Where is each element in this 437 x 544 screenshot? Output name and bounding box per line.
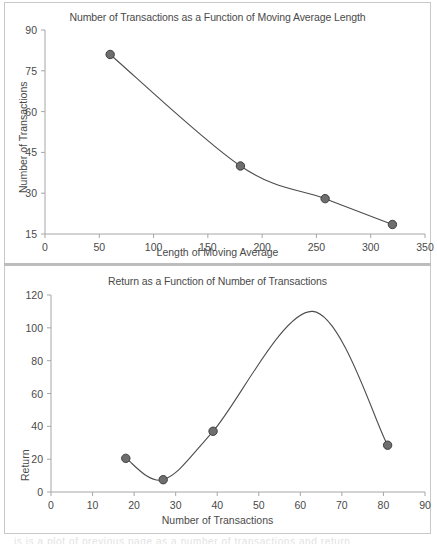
x-tick-label: 90: [419, 499, 431, 511]
y-tick-label: 60: [5, 106, 37, 118]
x-tick-label: 20: [128, 499, 140, 511]
data-point-marker: [383, 441, 391, 449]
plot-area-bottom: [5, 266, 430, 533]
series-line: [110, 54, 392, 224]
series-line: [126, 311, 388, 480]
x-tick-label: 0: [42, 241, 48, 253]
data-point-marker: [122, 454, 130, 462]
data-point-marker: [236, 162, 244, 170]
x-tick-label: 10: [87, 499, 99, 511]
y-tick-label: 120: [5, 289, 43, 301]
data-point-marker: [159, 475, 167, 483]
x-tick-label: 70: [336, 499, 348, 511]
data-point-marker: [209, 427, 217, 435]
plot-area-top: [5, 3, 430, 263]
x-tick-label: 350: [416, 241, 434, 253]
y-tick-label: 60: [5, 388, 43, 400]
data-point-marker: [388, 220, 396, 228]
x-tick-label: 80: [378, 499, 390, 511]
x-tick-label: 300: [362, 241, 380, 253]
y-tick-label: 75: [5, 65, 37, 77]
page-root: Number of Transactions as a Function of …: [0, 0, 437, 544]
x-tick-label: 50: [93, 241, 105, 253]
x-tick-label: 60: [294, 499, 306, 511]
chart-panel-transactions-vs-ma-length: Number of Transactions as a Function of …: [5, 3, 430, 263]
y-tick-label: 15: [5, 228, 37, 240]
x-tick-label: 100: [145, 241, 163, 253]
x-tick-label: 200: [253, 241, 271, 253]
chart-panel-return-vs-transactions: Return as a Function of Number of Transa…: [5, 266, 430, 533]
y-axis-title: Number of Transactions: [17, 82, 29, 193]
cutoff-text-line: is is a plot of previous page as a numbe…: [14, 536, 424, 544]
data-point-marker: [106, 50, 114, 58]
x-tick-label: 40: [211, 499, 223, 511]
y-tick-label: 80: [5, 355, 43, 367]
x-tick-label: 50: [253, 499, 265, 511]
x-tick-label: 30: [170, 499, 182, 511]
y-tick-label: 0: [5, 486, 43, 498]
y-tick-label: 100: [5, 322, 43, 334]
y-tick-label: 90: [5, 24, 37, 36]
y-tick-label: 30: [5, 187, 37, 199]
y-tick-label: 40: [5, 420, 43, 432]
data-point-marker: [321, 194, 329, 202]
x-tick-label: 150: [199, 241, 217, 253]
x-tick-label: 250: [308, 241, 326, 253]
x-tick-label: 0: [48, 499, 54, 511]
y-tick-label: 45: [5, 146, 37, 158]
x-axis-title: Number of Transactions: [5, 514, 430, 526]
y-tick-label: 20: [5, 453, 43, 465]
